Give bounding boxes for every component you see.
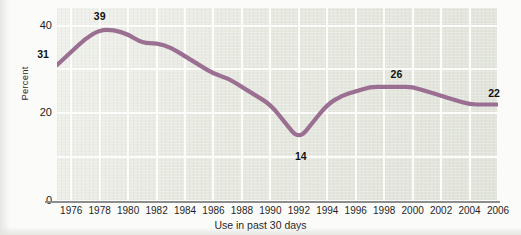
y-axis-tick-labels: 02040 (30, 0, 52, 235)
data-point-label: 39 (87, 10, 113, 22)
series-path (57, 30, 498, 135)
x-tick-label: 2006 (483, 205, 513, 216)
x-tick-label: 1982 (142, 205, 172, 216)
x-tick-label: 1996 (341, 205, 371, 216)
chart-figure: Percent 02040 19761978198019821984198619… (0, 0, 521, 235)
x-tick-label: 1998 (369, 205, 399, 216)
x-tick-label: 2004 (455, 205, 485, 216)
x-tick-label: 1984 (170, 205, 200, 216)
x-tick-label: 1976 (56, 205, 86, 216)
plot-area (57, 8, 498, 201)
x-tick-label: 2002 (426, 205, 456, 216)
y-tick-label: 40 (30, 20, 52, 31)
data-series-line (57, 8, 498, 201)
y-tick-label: 20 (30, 107, 52, 118)
x-tick-label: 2000 (398, 205, 428, 216)
data-point-label: 14 (288, 150, 314, 162)
y-axis-title: Percent (19, 54, 30, 114)
data-point-label: 31 (30, 48, 56, 60)
x-axis-line (45, 201, 500, 203)
data-point-label: 26 (383, 68, 409, 80)
x-tick-label: 1990 (255, 205, 285, 216)
x-tick-label: 1988 (227, 205, 257, 216)
x-tick-label: 1980 (113, 205, 143, 216)
x-tick-label: 1978 (85, 205, 115, 216)
scan-edge-left (0, 0, 10, 235)
x-axis-title: Use in past 30 days (0, 219, 521, 231)
x-tick-label: 1994 (312, 205, 342, 216)
data-point-label: 22 (481, 87, 507, 99)
x-tick-label: 1986 (198, 205, 228, 216)
x-tick-label: 1992 (284, 205, 314, 216)
